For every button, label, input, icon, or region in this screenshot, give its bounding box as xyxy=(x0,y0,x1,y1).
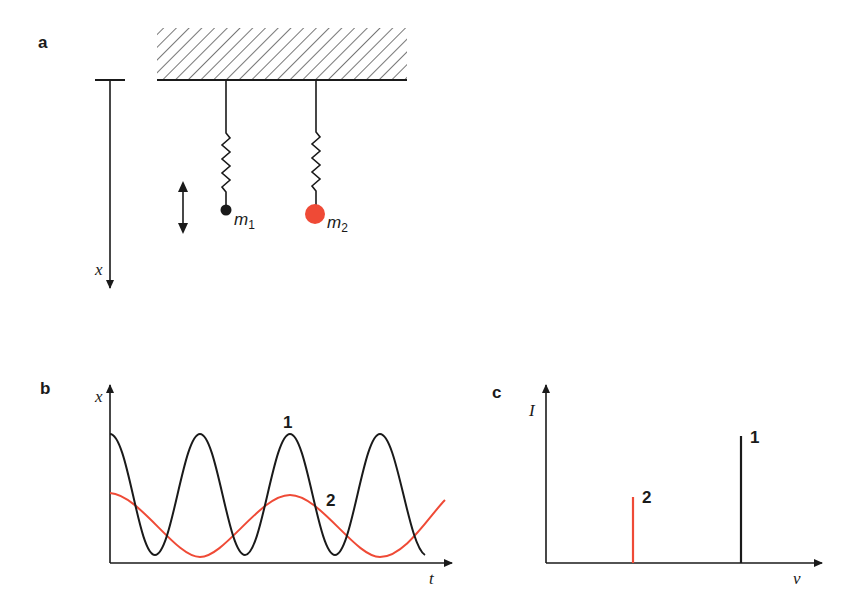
mass-2 xyxy=(305,204,325,224)
mass-1 xyxy=(221,205,232,216)
curve-2 xyxy=(110,493,445,557)
panel-a-label: a xyxy=(38,33,48,52)
figure-canvas: a x m1 m2 xyxy=(0,0,859,610)
curve-1 xyxy=(110,434,425,555)
spring-2 xyxy=(312,80,320,205)
curve-2-label: 2 xyxy=(326,491,335,510)
spring-1 xyxy=(222,80,230,206)
hatched-ceiling xyxy=(157,28,407,80)
mass-1-label: m1 xyxy=(234,210,255,232)
panel-b-label: b xyxy=(40,379,50,398)
c-x-axis-label: ν xyxy=(793,569,801,588)
panel-c: c I ν 2 1 xyxy=(492,383,822,588)
double-arrow-icon xyxy=(178,181,188,234)
panel-c-label: c xyxy=(492,383,501,402)
c-y-axis-label: I xyxy=(528,401,536,420)
x-axis-label: x xyxy=(94,260,103,279)
panel-a: a x m1 m2 xyxy=(38,28,407,288)
panel-b: b x t 1 2 xyxy=(40,379,452,588)
mass-2-label: m2 xyxy=(327,213,348,235)
spectral-line-2-label: 2 xyxy=(642,488,651,507)
b-x-axis-label: t xyxy=(429,569,435,588)
curve-1-label: 1 xyxy=(283,413,292,432)
spectral-line-1-label: 1 xyxy=(750,428,759,447)
x-axis-down: x xyxy=(94,80,125,288)
b-y-axis-label: x xyxy=(94,387,103,406)
